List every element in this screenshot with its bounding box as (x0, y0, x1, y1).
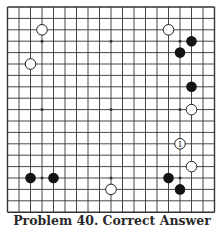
black-stone (175, 184, 186, 195)
black-stone (186, 36, 197, 47)
white-stone (163, 25, 174, 36)
go-board: 1 (0, 0, 224, 214)
star-point (179, 40, 182, 43)
star-point (179, 177, 182, 180)
white-stone (186, 161, 197, 172)
white-stone (37, 25, 48, 36)
black-stone (175, 47, 186, 58)
star-point (110, 108, 113, 111)
white-stone: 1 (175, 139, 186, 150)
white-stone (106, 184, 117, 195)
star-point (41, 108, 44, 111)
black-stone (163, 173, 174, 184)
star-point (179, 108, 182, 111)
white-stone (186, 104, 197, 115)
black-stone (48, 173, 59, 184)
white-stone (25, 59, 36, 70)
black-stone (25, 173, 36, 184)
star-point (110, 177, 113, 180)
star-point (41, 177, 44, 180)
diagram-caption: Problem 40. Correct Answer (0, 213, 224, 228)
move-number-label: 1 (177, 140, 182, 149)
star-point (110, 40, 113, 43)
black-stone (186, 82, 197, 93)
star-point (41, 40, 44, 43)
